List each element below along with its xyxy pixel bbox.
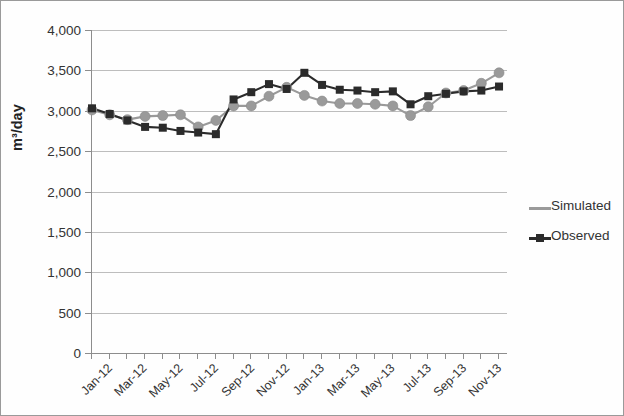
x-axis-tick-label: Jul-12 xyxy=(187,361,221,395)
legend-item-simulated: Simulated xyxy=(529,197,621,227)
legend-label-simulated: Simulated xyxy=(551,198,611,213)
data-point-simulated xyxy=(370,99,380,109)
data-point-observed xyxy=(176,127,184,135)
y-axis-tick-label: 3,500 xyxy=(47,63,81,78)
data-point-simulated xyxy=(246,101,256,111)
x-axis-tick-label: Sep-12 xyxy=(218,361,256,399)
data-point-observed xyxy=(247,88,255,96)
y-axis-tick-label: 2,000 xyxy=(47,184,81,199)
data-point-observed xyxy=(230,95,238,103)
x-axis-tick xyxy=(233,353,234,359)
x-axis-tick xyxy=(498,353,499,359)
y-axis-labels: 4,0003,5003,0002,5002,0001,5001,0005000 xyxy=(1,1,91,416)
data-point-observed xyxy=(353,87,361,95)
x-axis-tick-label: Nov-12 xyxy=(254,361,292,399)
data-point-observed xyxy=(407,100,415,108)
data-point-observed xyxy=(477,87,485,95)
legend-swatch-simulated xyxy=(529,206,551,210)
x-axis-tick-label: Mar-13 xyxy=(324,361,362,399)
data-point-observed xyxy=(336,86,344,94)
data-point-observed xyxy=(300,69,308,77)
data-point-simulated xyxy=(299,90,309,100)
y-axis-tick-label: 500 xyxy=(58,305,81,320)
x-axis-tick xyxy=(480,353,481,359)
y-axis-tick-label: 2,500 xyxy=(47,144,81,159)
y-axis-tick-label: 0 xyxy=(73,346,81,361)
x-axis-tick-label: Sep-13 xyxy=(431,361,469,399)
data-point-observed xyxy=(495,83,503,91)
x-axis-tick xyxy=(179,353,180,359)
x-axis-tick xyxy=(321,353,322,359)
data-point-observed xyxy=(123,116,131,124)
data-point-observed xyxy=(389,87,397,95)
data-point-observed xyxy=(460,87,468,95)
series-canvas xyxy=(92,30,507,353)
x-axis-tick xyxy=(144,353,145,359)
x-axis-tick xyxy=(374,353,375,359)
y-axis-title: m³/day xyxy=(9,104,25,151)
x-axis-tick xyxy=(126,353,127,359)
x-axis-tick xyxy=(162,353,163,359)
y-axis-tick-label: 1,500 xyxy=(47,224,81,239)
x-axis-tick xyxy=(303,353,304,359)
data-point-observed xyxy=(283,85,291,93)
x-axis-tick xyxy=(286,353,287,359)
data-point-simulated xyxy=(352,98,362,108)
data-point-observed xyxy=(318,81,326,89)
data-point-observed xyxy=(265,80,273,88)
data-point-observed xyxy=(159,124,167,132)
chart-frame: 4,0003,5003,0002,5002,0001,5001,0005000 … xyxy=(0,0,624,416)
x-axis-tick-label: Mar-12 xyxy=(112,361,150,399)
x-axis-tick xyxy=(427,353,428,359)
data-point-simulated xyxy=(388,101,398,111)
data-point-simulated xyxy=(317,96,327,106)
y-axis-tick-label: 1,000 xyxy=(47,265,81,280)
x-axis-tick xyxy=(339,353,340,359)
x-axis-tick xyxy=(268,353,269,359)
x-axis-tick-label: Nov-13 xyxy=(466,361,504,399)
series-line-observed xyxy=(92,73,499,134)
x-axis-tick-label: May-12 xyxy=(146,361,185,400)
data-point-observed xyxy=(424,92,432,100)
data-point-simulated xyxy=(406,111,416,121)
x-axis-tick-label: Jul-13 xyxy=(400,361,434,395)
x-axis-line xyxy=(91,353,506,354)
legend-label-observed: Observed xyxy=(551,228,610,243)
data-point-observed xyxy=(371,88,379,96)
y-axis-tick-label: 3,000 xyxy=(47,103,81,118)
x-axis-tick xyxy=(197,353,198,359)
data-point-observed xyxy=(141,123,149,131)
data-point-observed xyxy=(442,90,450,98)
data-point-simulated xyxy=(175,110,185,120)
data-point-simulated xyxy=(423,102,433,112)
plot-area xyxy=(91,30,506,353)
x-axis-tick xyxy=(410,353,411,359)
x-axis-tick xyxy=(250,353,251,359)
data-point-observed xyxy=(194,129,202,137)
data-point-simulated xyxy=(158,111,168,121)
data-point-observed xyxy=(88,104,96,112)
data-point-observed xyxy=(106,110,114,118)
x-axis-tick xyxy=(91,353,92,359)
data-point-observed xyxy=(212,130,220,138)
x-axis-tick xyxy=(356,353,357,359)
data-point-simulated xyxy=(335,98,345,108)
x-axis-tick xyxy=(463,353,464,359)
data-point-simulated xyxy=(494,68,504,78)
data-point-simulated xyxy=(264,91,274,101)
x-axis-tick-label: Jan-13 xyxy=(291,361,328,398)
data-point-simulated xyxy=(140,111,150,121)
x-axis-tick xyxy=(392,353,393,359)
legend-item-observed: Observed xyxy=(529,227,621,257)
x-axis-tick xyxy=(445,353,446,359)
x-axis-tick xyxy=(215,353,216,359)
data-point-simulated xyxy=(211,115,221,125)
legend-swatch-observed xyxy=(529,236,551,240)
x-axis-tick-label: May-13 xyxy=(358,361,397,400)
chart-legend: Simulated Observed xyxy=(529,197,621,257)
x-axis-tick xyxy=(109,353,110,359)
y-axis-tick-label: 4,000 xyxy=(47,23,81,38)
